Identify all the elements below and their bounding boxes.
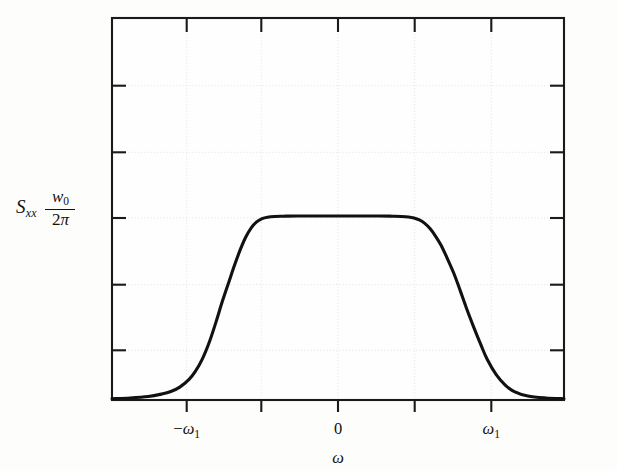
- fraction-denominator: 2π: [49, 210, 72, 229]
- figure-page: −ω1 0 ω1 ω Sxx w0 2π: [0, 0, 617, 471]
- y-axis-tick-value-fraction: w0 2π: [45, 188, 75, 229]
- spectral-density-plot: −ω1 0 ω1 ω: [0, 0, 617, 471]
- x-axis-ticks-bottom: [187, 400, 492, 412]
- x-tick-label-pos-omega1: ω1: [483, 419, 501, 440]
- x-axis-title: ω: [332, 448, 344, 467]
- x-tick-label-neg-omega1: −ω1: [173, 419, 200, 440]
- x-tick-label-zero: 0: [334, 419, 342, 438]
- y-axis-label-symbol: Sxx: [16, 196, 36, 221]
- plot-background: [112, 18, 564, 400]
- fraction-numerator: w0: [49, 188, 72, 209]
- x-tick-labels: −ω1 0 ω1: [173, 419, 500, 440]
- y-axis-label-group: Sxx w0 2π: [16, 188, 75, 229]
